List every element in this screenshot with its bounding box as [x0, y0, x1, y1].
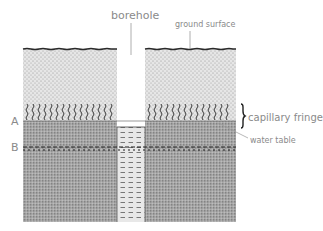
capillary-fringe-brace: [241, 104, 245, 128]
saturated-zone-left: [23, 121, 117, 222]
water-table-label: water table: [250, 137, 296, 145]
left-soil-block: [23, 49, 117, 223]
capillary-fringe-label: capillary fringe: [248, 113, 323, 123]
borehole-label: borehole: [111, 10, 159, 21]
ground-surface-label: ground surface: [175, 21, 235, 29]
saturated-zone-right: [145, 121, 236, 222]
borehole: [117, 127, 145, 222]
ground-surface-left: [23, 49, 117, 50]
borehole-water: [117, 127, 145, 222]
level-b-label: B: [11, 142, 19, 153]
unsaturated-zone-right: [145, 49, 236, 121]
unsaturated-zone-left: [23, 49, 117, 121]
level-a-label: A: [11, 116, 19, 127]
right-soil-block: [145, 49, 236, 223]
ground-surface-right: [145, 49, 236, 50]
